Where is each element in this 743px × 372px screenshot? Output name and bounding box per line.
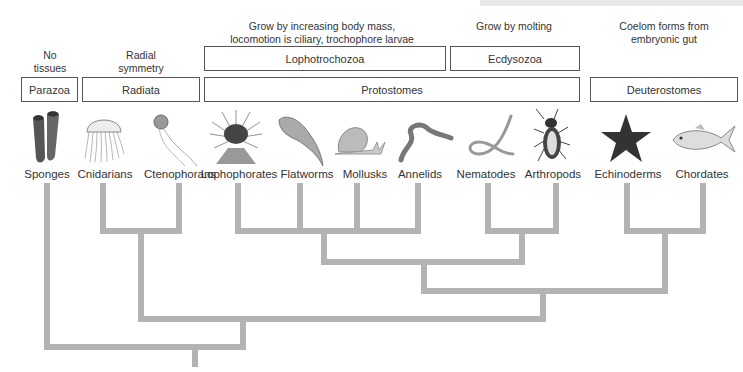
branch-ecdysozoa (488, 186, 556, 231)
branch-eumetazoa (141, 231, 543, 319)
branch-root (47, 186, 243, 347)
branch-protostomes (324, 231, 522, 262)
branch-radiata (103, 186, 179, 231)
phylogenetic-tree (0, 0, 743, 372)
branch-deuterostomes (627, 186, 703, 231)
branch-lophotrochozoa (238, 186, 418, 231)
